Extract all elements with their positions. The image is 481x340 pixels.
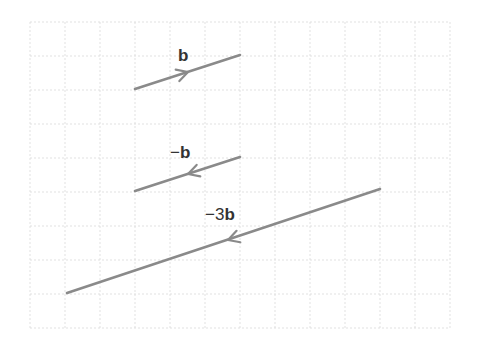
vectors: b−b−3b <box>67 46 380 293</box>
vector-label: −b <box>170 143 190 162</box>
vector-diagram: b−b−3b <box>0 0 481 340</box>
grid <box>30 22 450 328</box>
vector-label: −3b <box>205 205 235 224</box>
vector-label: b <box>178 46 188 65</box>
vector-neg-b: −b <box>135 143 240 191</box>
vector-b: b <box>135 46 240 89</box>
vector-neg-3b: −3b <box>67 189 380 293</box>
